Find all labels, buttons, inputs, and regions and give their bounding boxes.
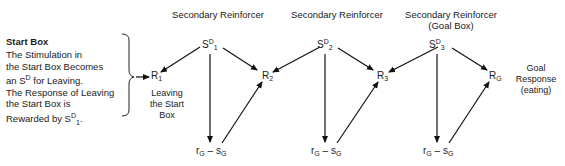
header-text: Secondary Reinforcer	[396, 9, 506, 20]
goal-response-caption: Goal Response (eating)	[510, 63, 562, 96]
node-rg: RG	[489, 70, 502, 82]
r1-caption: Leaving the Start Box	[143, 88, 191, 121]
caption-line: the Start	[143, 99, 191, 110]
node-rg-sg-2: rG – sG	[311, 145, 341, 157]
header-text: Secondary Reinforcer	[291, 9, 383, 20]
header-secondary-reinforcer-1: Secondary Reinforcer	[168, 9, 268, 20]
start-box-line: The Response of Leaving	[6, 87, 131, 99]
start-box-line: an SD for Leaving.	[6, 72, 131, 87]
caption-line: Response	[510, 74, 562, 85]
node-r3: R3	[377, 70, 388, 82]
header-secondary-reinforcer-goal-box: Secondary Reinforcer (Goal Box)	[396, 9, 506, 31]
node-r1: R1	[151, 70, 162, 82]
start-box-line: the Start Box is	[6, 98, 131, 110]
header-secondary-reinforcer-2: Secondary Reinforcer	[287, 9, 387, 20]
start-box-line: Rewarded by SD1.	[6, 110, 131, 129]
header-text: Secondary Reinforcer	[172, 9, 264, 20]
caption-line: Leaving	[143, 88, 191, 99]
start-box-line: The Stimulation in	[6, 49, 131, 61]
node-rg-sg-3: rG – sG	[423, 145, 453, 157]
node-rg-sg-1: rG – sG	[196, 145, 226, 157]
start-box-description: Start Box The Stimulation in the Start B…	[6, 36, 131, 128]
caption-line: (eating)	[510, 85, 562, 96]
start-box-line: the Start Box Becomes	[6, 61, 131, 73]
start-box-title: Start Box	[6, 36, 131, 47]
node-sd1: SD1	[202, 38, 218, 51]
header-subtext: (Goal Box)	[396, 20, 506, 31]
node-r2: R2	[262, 70, 273, 82]
caption-line: Goal	[510, 63, 562, 74]
start-box-body: The Stimulation in the Start Box Becomes…	[6, 49, 131, 128]
caption-line: Box	[143, 110, 191, 121]
node-sd3: SD3	[429, 38, 445, 51]
node-sd2: SD2	[317, 38, 333, 51]
